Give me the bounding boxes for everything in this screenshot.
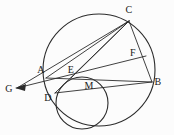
point-label-M: M — [84, 81, 93, 91]
segment-G-to-C — [17, 21, 129, 88]
point-label-B: B — [155, 77, 162, 87]
circles-group — [43, 14, 155, 129]
point-label-E: E — [68, 65, 74, 75]
segment-A-to-C — [46, 21, 129, 78]
segment-C-to-E — [71, 21, 129, 78]
diagram-canvas — [0, 0, 174, 135]
point-label-G: G — [5, 84, 12, 94]
segment-A-to-B — [46, 78, 152, 82]
point-label-C: C — [126, 5, 133, 15]
segment-D-to-B — [55, 82, 152, 93]
geometry-figure: A B C D E F G M — [0, 0, 174, 135]
point-label-A: A — [37, 65, 44, 75]
point-label-F: F — [130, 48, 136, 58]
large-circle — [43, 14, 155, 126]
arrowhead-to-G — [15, 84, 26, 91]
point-label-D: D — [44, 93, 51, 103]
